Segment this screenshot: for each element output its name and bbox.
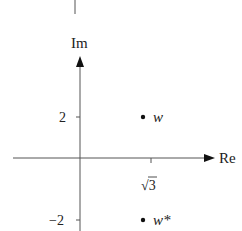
- imaginary-axis-label: Im: [71, 35, 88, 51]
- point-w-conjugate: [141, 218, 145, 222]
- imaginary-axis-arrow-icon: [76, 56, 84, 67]
- tick-label-x: √3: [141, 178, 156, 193]
- real-axis-arrow-icon: [204, 154, 215, 162]
- point-w-label: w: [153, 109, 163, 125]
- argand-diagram: Im Re 2 −2 √3 w w*: [0, 0, 242, 231]
- tick-label-y-negative: −2: [49, 213, 64, 228]
- point-w-conjugate-label: w*: [153, 212, 171, 228]
- real-axis-label: Re: [219, 150, 236, 166]
- point-w: [141, 115, 145, 119]
- tick-label-y-positive: 2: [59, 110, 66, 125]
